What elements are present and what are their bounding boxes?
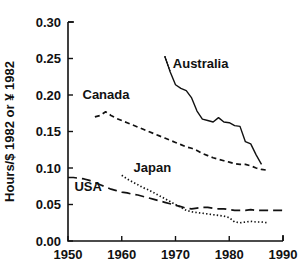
series-line-canada	[95, 112, 267, 170]
x-tick-label: 1950	[54, 247, 83, 262]
axis-ticks	[68, 22, 283, 241]
y-tick-label: 0.20	[36, 88, 61, 103]
x-tick-label: 1980	[215, 247, 244, 262]
data-series	[68, 56, 283, 222]
x-tick-label: 1970	[161, 247, 190, 262]
series-label-japan: Japan	[134, 160, 172, 175]
y-tick-label: 0.15	[36, 124, 61, 139]
series-line-japan	[122, 175, 267, 222]
y-tick-label: 0.05	[36, 197, 61, 212]
series-line-australia	[165, 56, 262, 164]
y-tick-label: 0.30	[36, 15, 61, 30]
chart-figure: 0.000.050.100.150.200.250.30195019601970…	[0, 0, 306, 271]
x-tick-label: 1990	[269, 247, 298, 262]
series-label-australia: Australia	[173, 56, 229, 71]
axis-spines	[68, 22, 283, 241]
y-axis-title: Hours/$ 1982 or ¥ 1982	[2, 61, 17, 202]
series-label-usa: USA	[74, 179, 102, 194]
y-axis-title-text: Hours/$ 1982 or ¥ 1982	[2, 61, 17, 202]
series-annotations: AustraliaCanadaJapanUSA	[74, 56, 229, 194]
axes	[68, 22, 283, 241]
series-label-canada: Canada	[83, 87, 131, 102]
x-tick-label: 1960	[107, 247, 136, 262]
line-chart: 0.000.050.100.150.200.250.30195019601970…	[0, 0, 306, 271]
y-tick-label: 0.10	[36, 161, 61, 176]
y-tick-label: 0.25	[36, 51, 61, 66]
